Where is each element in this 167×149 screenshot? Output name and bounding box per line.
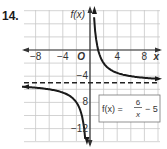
- equation-tail: − 5: [145, 104, 158, 114]
- y-axis-arrow-up: [88, 6, 93, 13]
- x-tick-label: 8: [142, 51, 148, 62]
- y-tick-label: −12: [71, 123, 88, 134]
- curve-arrow-left: [22, 84, 29, 89]
- equation-lhs: f(x) =: [102, 104, 123, 114]
- curve-arrow-up: [92, 6, 97, 14]
- y-axis-arrow-down: [88, 140, 93, 147]
- x-tick-label: −8: [30, 51, 42, 62]
- x-axis-label: x: [152, 51, 159, 62]
- y-axis-label: f(x): [71, 9, 85, 20]
- curve-arrow-right: [155, 76, 162, 81]
- x-axis-arrow-left: [22, 48, 29, 53]
- x-tick-label: −4: [57, 51, 69, 62]
- y-tick-label: 8: [82, 96, 88, 107]
- y-tick-label: −4: [77, 70, 89, 81]
- origin-label: O: [77, 51, 85, 62]
- equation-numerator: 6: [136, 98, 141, 107]
- function-graph: −8−448Oxf(x)−48−12f(x) =6x− 5: [0, 0, 167, 149]
- x-tick-label: 4: [114, 51, 120, 62]
